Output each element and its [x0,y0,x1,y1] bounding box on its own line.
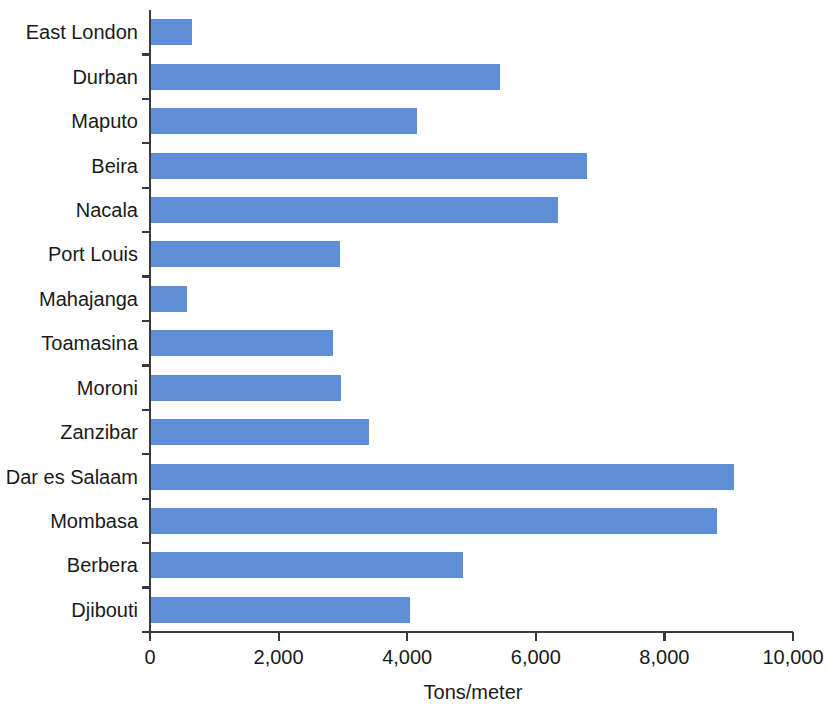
bar [150,286,187,312]
bar [150,508,717,534]
y-axis-tick-label: Djibouti [71,599,138,621]
bars-group [150,19,734,623]
y-axis-tick-label: East London [26,21,138,43]
x-axis-tick-label: 8,000 [639,646,689,668]
bar [150,241,340,267]
chart-page: East LondonDurbanMaputoBeiraNacalaPort L… [0,0,829,710]
y-axis-tick-label: Zanzibar [60,421,138,443]
bar [150,419,369,445]
bar [150,197,558,223]
horizontal-bar-chart: East LondonDurbanMaputoBeiraNacalaPort L… [0,0,829,710]
bar [150,153,587,179]
x-axis-tick-label: 6,000 [511,646,561,668]
bar [150,375,341,401]
y-axis-tick-label: Berbera [67,554,139,576]
y-axis-category-labels: East LondonDurbanMaputoBeiraNacalaPort L… [6,21,139,621]
x-axis-tick-labels: 02,0004,0006,0008,00010,000 [144,646,823,668]
y-axis-tick-label: Durban [72,66,138,88]
y-axis-tick-label: Mombasa [50,510,139,532]
bar [150,552,463,578]
x-axis-tick-label: 2,000 [254,646,304,668]
y-axis-tick-label: Moroni [77,377,138,399]
x-axis-tick-label: 10,000 [762,646,823,668]
bar [150,597,410,623]
y-axis-tick-label: Beira [91,155,139,177]
y-axis-tick-label: Port Louis [48,243,138,265]
bar [150,330,333,356]
x-axis-tick-label: 4,000 [382,646,432,668]
y-axis-tick-marks [142,54,150,632]
bar [150,108,417,134]
y-axis-tick-label: Dar es Salaam [6,466,138,488]
y-axis-tick-label: Maputo [71,110,138,132]
x-axis-title: Tons/meter [424,681,523,703]
bar [150,19,192,45]
bar [150,464,734,490]
axis-group [142,10,793,641]
x-axis-tick-label: 0 [144,646,155,668]
bar [150,64,500,90]
x-axis-tick-marks [150,632,793,641]
y-axis-tick-label: Toamasina [41,332,139,354]
y-axis-tick-label: Nacala [76,199,139,221]
y-axis-tick-label: Mahajanga [39,288,139,310]
